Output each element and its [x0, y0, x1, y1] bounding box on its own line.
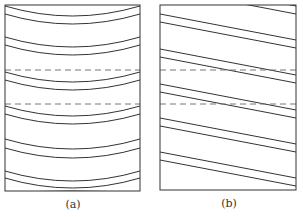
panel-b-label: (b) — [209, 197, 249, 210]
curved-band-line — [5, 37, 140, 47]
slanted-band-line — [160, 14, 296, 40]
curved-band-line — [5, 139, 140, 149]
slanted-band-line — [160, 126, 296, 152]
panel-a-frame — [5, 5, 140, 191]
curves-group — [5, 6, 140, 193]
curved-band-line — [5, 178, 140, 188]
slanted-band-line — [160, 118, 296, 144]
slanted-band-line — [160, 0, 296, 14]
panel-a — [5, 5, 140, 193]
slanted-band-line — [160, 22, 296, 48]
slanted-band-line — [160, 152, 296, 178]
panel-a-label: (a) — [53, 198, 93, 211]
slanted-band-line — [160, 84, 296, 110]
slanted-band-line — [160, 160, 296, 186]
lines-group — [160, 0, 296, 186]
figure-canvas — [0, 0, 303, 217]
curved-band-line — [5, 6, 140, 16]
panel-b — [160, 0, 296, 190]
curved-band-line — [5, 106, 140, 116]
curved-band-line — [5, 72, 140, 82]
curved-band-line — [5, 171, 140, 181]
slanted-band-line — [160, 92, 296, 118]
slanted-band-line — [160, 49, 296, 75]
